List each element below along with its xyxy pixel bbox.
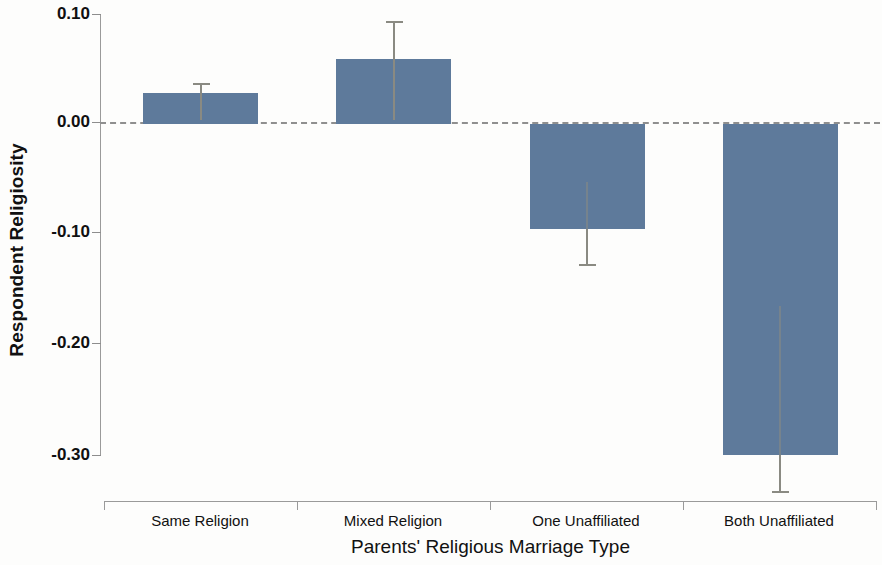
error-bar-inner-stub-3	[779, 306, 781, 455]
error-bar-cap-0	[193, 83, 210, 85]
error-bar-line-2	[586, 229, 588, 264]
error-bar-line-0	[200, 83, 202, 120]
error-bar-line-1	[393, 21, 395, 121]
error-bar-inner-stub-2	[586, 182, 588, 229]
x-axis-title: Parents' Religious Marriage Type	[104, 536, 877, 558]
bar-chart: Respondent Religiosity 0.10 0.00 -0.10 -…	[0, 0, 882, 565]
x-tick-mark-start	[104, 501, 105, 510]
error-bar-cap-2	[579, 264, 596, 266]
x-category-label-3: Both Unaffiliated	[724, 512, 834, 529]
error-bar-cap-3	[772, 491, 789, 493]
error-bar-cap-1	[386, 21, 403, 23]
error-bar-line-3	[779, 455, 781, 491]
plot-area	[0, 0, 882, 565]
x-tick-mark-2	[490, 501, 491, 510]
x-category-label-0: Same Religion	[151, 512, 249, 529]
x-category-label-1: Mixed Religion	[344, 512, 442, 529]
x-tick-mark-end	[876, 501, 877, 510]
x-tick-mark-1	[297, 501, 298, 510]
x-tick-mark-3	[683, 501, 684, 510]
x-category-label-2: One Unaffiliated	[532, 512, 639, 529]
